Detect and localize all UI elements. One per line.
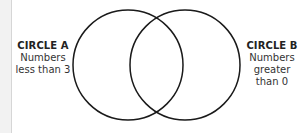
circle-b-desc-line: greater [244, 64, 300, 76]
circle-a-desc-line: Numbers [13, 52, 73, 64]
circle-b [130, 10, 240, 120]
circle-a-label: CIRCLE A Numbers less than 3 [13, 40, 73, 76]
circle-a [73, 10, 183, 120]
circle-b-label: CIRCLE B Numbers greater than 0 [244, 40, 300, 88]
circle-b-desc-line: Numbers [244, 52, 300, 64]
circle-a-desc-line: less than 3 [13, 64, 73, 76]
circle-b-desc-line: than 0 [244, 76, 300, 88]
circle-a-title: CIRCLE A [13, 40, 73, 52]
circle-b-title: CIRCLE B [244, 40, 300, 52]
